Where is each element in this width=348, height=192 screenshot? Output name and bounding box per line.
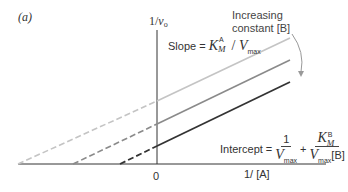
fraction-2-k: K [317, 130, 326, 145]
increasing-arrow [292, 34, 302, 72]
slope-slash: / [228, 38, 239, 53]
intercept-prefix: Intercept = [220, 143, 272, 155]
annotation-line-1: Increasing [232, 9, 290, 22]
panel-label: (a) [18, 10, 32, 25]
intercept-fraction-2: KBM Vmax[B] [310, 131, 345, 168]
fraction-2-k-scripts: BM [327, 132, 337, 146]
intercept-fraction-1: 1 Vmax [275, 132, 297, 168]
increasing-b-annotation: Increasing constant [B] [232, 9, 290, 35]
line-low-b-extrapolated [18, 101, 157, 164]
origin-label: 0 [153, 170, 159, 182]
plus-sign: + [300, 143, 306, 155]
slope-prefix: Slope = [168, 40, 209, 52]
slope-k-scripts: AM [218, 40, 228, 54]
x-axis-label: 1/ [A] [244, 168, 270, 180]
slope-vmax: Vmax [239, 38, 261, 53]
y-axis-label-main: 1/ [149, 14, 158, 28]
fraction-2-numerator: KBM [315, 131, 338, 147]
fraction-2-k-sub: M [327, 136, 335, 150]
fraction-2-v-sub: max [318, 157, 331, 164]
fraction-1-v-sub: max [284, 156, 297, 163]
slope-k-sup: A [219, 36, 224, 43]
intercept-equation: Intercept = 1 Vmax + KBM Vmax[B] [220, 131, 348, 168]
y-axis-label-sub: o [164, 20, 168, 29]
fraction-2-v: V [310, 147, 319, 162]
arrow-head-icon [298, 71, 304, 77]
fraction-1-denominator: Vmax [275, 147, 297, 168]
slope-k: K [209, 38, 218, 53]
slope-v-sub: max [247, 48, 260, 55]
line-high-b-extrapolated [120, 146, 157, 164]
fraction-1-numerator: 1 [281, 132, 291, 147]
fraction-2-denominator: Vmax[B] [310, 147, 345, 168]
slope-equation: Slope = KAM / Vmax [168, 38, 261, 55]
line-mid-b-extrapolated [73, 124, 157, 164]
slope-k-sub: M [218, 44, 226, 54]
annotation-line-2: constant [B] [232, 22, 290, 35]
fraction-1-v: V [275, 147, 284, 162]
y-axis-label: 1/vo [149, 14, 168, 29]
fraction-2-b-conc: [B] [331, 149, 344, 161]
